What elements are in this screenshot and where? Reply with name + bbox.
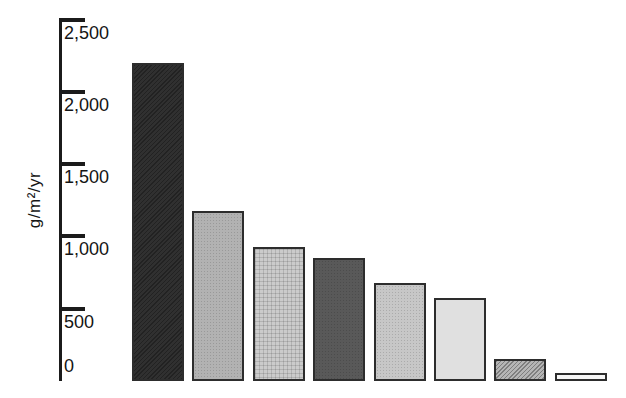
y-tick-label: 2,500 xyxy=(64,24,109,42)
bar-3 xyxy=(253,247,305,381)
bar-5 xyxy=(374,283,426,381)
y-tick-label: 0 xyxy=(64,357,74,375)
y-tick-mark xyxy=(59,90,85,94)
bar-1 xyxy=(132,63,184,381)
y-tick-mark xyxy=(59,307,85,311)
y-tick-mark xyxy=(59,234,85,238)
y-tick-mark xyxy=(59,18,85,22)
bar-6 xyxy=(434,298,486,381)
bar-8 xyxy=(555,373,607,381)
y-axis-label: g/m²/yr xyxy=(25,150,45,250)
bar-chart: g/m²/yr 2,5002,0001,5001,0005000 xyxy=(0,0,626,398)
bar-2 xyxy=(192,211,244,381)
y-tick-label: 2,000 xyxy=(64,96,109,114)
bar-4 xyxy=(313,258,365,381)
y-tick-label: 1,500 xyxy=(64,168,109,186)
y-tick-label: 1,000 xyxy=(64,240,109,258)
bar-7 xyxy=(494,359,546,381)
y-tick-label: 500 xyxy=(64,313,94,331)
y-tick-mark xyxy=(59,162,85,166)
y-axis-line xyxy=(59,19,62,381)
